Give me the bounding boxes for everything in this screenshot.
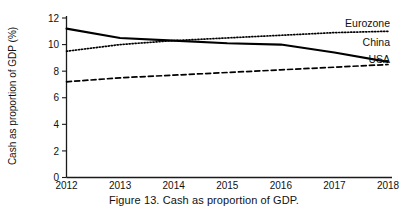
series-line-usa bbox=[67, 65, 389, 82]
x-tick-label: 2017 bbox=[323, 180, 346, 191]
chart-canvas: 024681012 2012201320142015201620172018 E… bbox=[0, 0, 408, 192]
x-tick-label: 2018 bbox=[377, 180, 400, 191]
figure-container: 024681012 2012201320142015201620172018 E… bbox=[0, 0, 408, 218]
x-tick-label: 2014 bbox=[163, 180, 186, 191]
y-tick-label: 2 bbox=[53, 146, 59, 157]
x-tick-label: 2012 bbox=[55, 180, 78, 191]
y-tick-label: 10 bbox=[48, 39, 60, 50]
series-line-eurozone bbox=[67, 31, 389, 51]
x-axis: 2012201320142015201620172018 bbox=[55, 180, 399, 191]
data-series-group bbox=[67, 29, 389, 82]
x-tick-label: 2013 bbox=[109, 180, 132, 191]
series-label-group: EurozoneChinaUSA bbox=[345, 17, 390, 65]
x-tick-label: 2015 bbox=[216, 180, 239, 191]
y-tick-label: 4 bbox=[53, 119, 59, 130]
figure-caption: Figure 13. Cash as proportion of GDP. bbox=[0, 194, 408, 206]
line-chart: 024681012 2012201320142015201620172018 E… bbox=[0, 0, 408, 192]
series-label-china: China bbox=[363, 36, 391, 48]
y-axis-title: Cash as proportion of GDP (%) bbox=[7, 27, 18, 165]
x-tick-label: 2016 bbox=[270, 180, 293, 191]
y-tick-label: 6 bbox=[53, 92, 59, 103]
series-label-usa: USA bbox=[368, 53, 390, 65]
y-axis: 024681012 bbox=[48, 13, 67, 184]
series-label-eurozone: Eurozone bbox=[345, 17, 390, 29]
y-tick-label: 8 bbox=[53, 66, 59, 77]
y-tick-label: 12 bbox=[48, 13, 60, 24]
